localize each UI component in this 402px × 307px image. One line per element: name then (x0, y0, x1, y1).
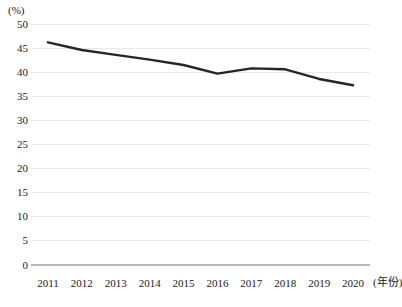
x-axis-unit-label: (年份) (373, 276, 402, 289)
y-axis-tick-label: 25 (2, 139, 28, 150)
y-axis-tick-label: 10 (2, 211, 28, 222)
series-line-group (31, 24, 370, 265)
y-axis-tick-label: 20 (2, 163, 28, 174)
plot-area (31, 24, 370, 265)
y-axis-tick-label: 45 (2, 43, 28, 54)
y-axis-tick-label: 40 (2, 67, 28, 78)
x-axis-tick-label: 2014 (139, 277, 161, 289)
y-axis-tick-label: 35 (2, 91, 28, 102)
y-axis-tick-label: 50 (2, 19, 28, 30)
x-axis-tick-label: 2019 (308, 277, 330, 289)
y-axis-unit-label: (%) (8, 4, 25, 16)
y-axis-tick-label: 5 (2, 235, 28, 246)
x-axis-tick-label: 2012 (71, 277, 93, 289)
x-axis-tick-label: 2015 (173, 277, 195, 289)
x-axis-tick-label: 2020 (342, 277, 364, 289)
x-axis-tick-label: 2013 (105, 277, 127, 289)
x-axis-tick-label: 2016 (206, 277, 228, 289)
y-axis-tick-labels: 05101520253035404550 (0, 24, 28, 265)
x-axis-tick-labels: 2011201220132014201520162017201820192020 (31, 277, 370, 293)
x-axis-tick-label: 2017 (240, 277, 262, 289)
y-axis-tick-label: 15 (2, 187, 28, 198)
series-line (48, 42, 353, 85)
x-axis-tick-label: 2018 (274, 277, 296, 289)
y-axis-tick-label: 30 (2, 115, 28, 126)
y-axis-tick-label: 0 (2, 260, 28, 271)
x-axis-tick-label: 2011 (37, 277, 59, 289)
